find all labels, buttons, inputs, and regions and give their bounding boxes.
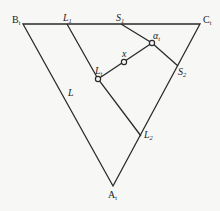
point-x xyxy=(121,59,126,64)
point-l2-label: L2 xyxy=(143,129,154,141)
triangle-outline xyxy=(23,24,200,186)
vertex-b-label: Bt xyxy=(12,14,21,26)
ternary-diagram: Bt Ct At L1 S1 αt x Lt S2 L2 L xyxy=(0,0,220,211)
point-s2-label: S2 xyxy=(178,66,187,78)
point-lt xyxy=(95,76,100,81)
point-alpha xyxy=(149,40,154,45)
point-x-label: x xyxy=(121,48,127,59)
liquidus-line-l1-l2 xyxy=(67,24,141,136)
point-s1-label: S1 xyxy=(116,12,124,24)
edge-l-label: L xyxy=(67,87,74,98)
vertex-c-label: Ct xyxy=(203,14,212,26)
vertex-a-label: At xyxy=(108,189,117,201)
point-l1-label: L1 xyxy=(62,12,72,24)
point-lt-label: Lt xyxy=(94,65,103,77)
point-alpha-label: αt xyxy=(153,30,160,42)
